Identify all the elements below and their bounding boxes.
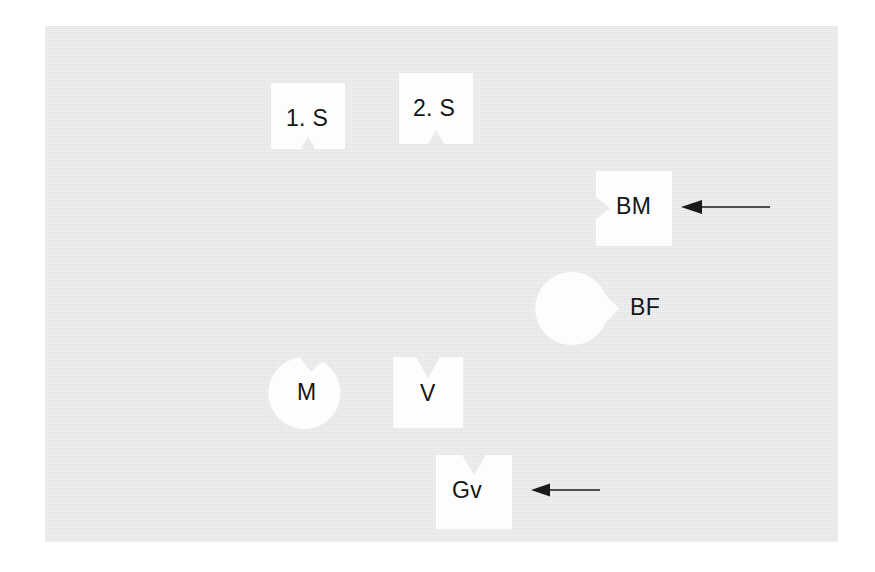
- shape-bf[interactable]: [602, 272, 675, 345]
- arrow-to-gv: [530, 479, 602, 501]
- arrow-to-bm: [680, 196, 772, 218]
- shape-gv[interactable]: [436, 455, 512, 529]
- shape-m[interactable]: [271, 356, 343, 428]
- shape-1s[interactable]: [271, 83, 345, 149]
- shape-2s[interactable]: [399, 73, 473, 144]
- shape-bm[interactable]: [596, 171, 672, 246]
- shape-v[interactable]: [393, 357, 463, 428]
- figure-canvas: 1. S 2. S BM BF M V Gv: [0, 0, 875, 572]
